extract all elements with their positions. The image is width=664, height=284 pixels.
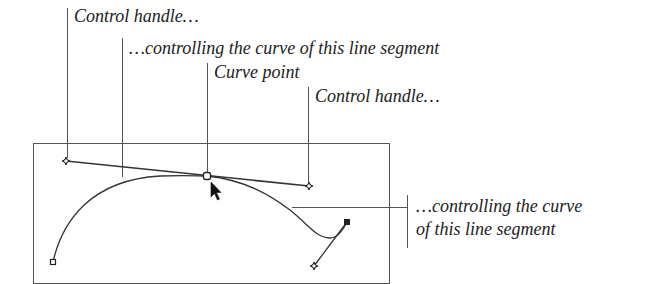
canvas-frame [34, 144, 390, 284]
handle-line-top [66, 161, 309, 186]
end-anchor-icon[interactable] [345, 220, 350, 225]
curve-left-segment [53, 176, 207, 262]
handle-line-end [314, 222, 347, 266]
right-handle-icon[interactable] [305, 182, 313, 190]
label-control-handle-right: Control handle… [315, 86, 440, 106]
arrow-cursor-icon [211, 182, 221, 200]
label-controlling-segment-right-1: …controlling the curve [416, 196, 582, 216]
label-control-handle-left: Control handle… [74, 6, 199, 26]
start-anchor-icon[interactable] [51, 260, 56, 265]
label-controlling-segment-right-2: of this line segment [416, 219, 555, 239]
curve-point-icon[interactable] [204, 173, 211, 180]
left-handle-icon[interactable] [62, 157, 70, 165]
label-curve-point: Curve point [214, 62, 300, 82]
label-controlling-segment-top: …controlling the curve of this line segm… [129, 38, 439, 58]
